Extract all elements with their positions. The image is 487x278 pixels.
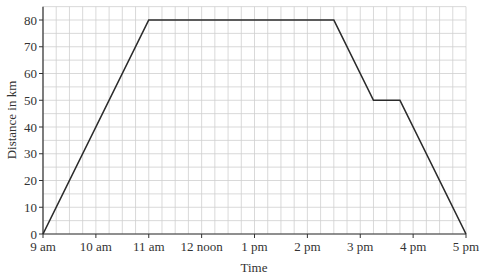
distance-time-chart: 9 am10 am11 am12 noon1 pm2 pm3 pm4 pm5 p… (0, 0, 487, 278)
y-tick-label: 70 (24, 39, 37, 54)
x-tick-label: 3 pm (347, 239, 373, 254)
y-tick-label: 50 (24, 93, 37, 108)
x-tick-label: 5 pm (453, 239, 479, 254)
x-tick-label: 4 pm (400, 239, 426, 254)
x-tick-label: 12 noon (181, 239, 224, 254)
y-tick-label: 60 (24, 66, 37, 81)
y-axis-ticks: 01020304050607080 (24, 13, 43, 242)
chart-grid (43, 7, 466, 234)
x-axis-title: Time (241, 260, 268, 275)
y-tick-label: 40 (24, 120, 37, 135)
y-axis-title: Distance in km (4, 81, 19, 160)
y-tick-label: 80 (24, 13, 37, 28)
y-tick-label: 10 (24, 200, 37, 215)
x-axis-ticks: 9 am10 am11 am12 noon1 pm2 pm3 pm4 pm5 p… (30, 234, 479, 254)
x-tick-label: 10 am (80, 239, 112, 254)
x-tick-label: 1 pm (241, 239, 267, 254)
y-tick-label: 0 (31, 227, 38, 242)
x-tick-label: 2 pm (294, 239, 320, 254)
y-tick-label: 30 (24, 146, 37, 161)
y-tick-label: 20 (24, 173, 37, 188)
x-tick-label: 11 am (133, 239, 165, 254)
